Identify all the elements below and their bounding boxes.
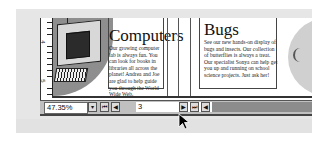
ruler-tick <box>47 88 52 89</box>
previous-page-button[interactable]: ◀ <box>111 102 120 112</box>
zoom-level-field[interactable]: 47.35% <box>44 102 88 114</box>
column-guide <box>167 18 168 96</box>
first-page-icon: ⏮ <box>102 103 107 110</box>
previous-page-icon: ◀ <box>113 103 118 110</box>
keyboard-icon <box>54 68 88 82</box>
ruler-tick <box>47 76 52 77</box>
status-bar: 47.35% ▾ ⏮ ◀ 3 ▶ ⏭ ◀ <box>40 100 312 116</box>
ruler-tick <box>47 64 52 65</box>
bugs-title: Bugs <box>204 21 239 38</box>
ruler-tick <box>47 52 52 53</box>
document-page[interactable]: Computers Our growing computer lab is al… <box>53 18 312 96</box>
monitor-screen <box>66 31 90 60</box>
ruler-tick <box>47 46 52 47</box>
frame-bottom-band <box>16 119 312 133</box>
mouse-pointer-icon <box>178 113 194 131</box>
computers-body: Our growing computer lab is always fun. … <box>109 45 161 96</box>
vertical-ruler[interactable]: 4 5 <box>41 18 53 96</box>
ruler-tick <box>47 28 52 29</box>
last-page-icon: ⏭ <box>192 103 197 110</box>
ruler-label: 4 <box>40 40 46 43</box>
ruler-tick <box>47 58 52 59</box>
computer-monitor-icon <box>57 20 101 67</box>
ruler-tick <box>47 70 52 71</box>
bugs-body: See our new hands-on display of bugs and… <box>204 39 278 79</box>
next-page-button[interactable]: ▶ <box>179 102 188 112</box>
zoom-dropdown-button[interactable]: ▾ <box>88 102 97 112</box>
scroll-left-icon: ◀ <box>203 103 208 110</box>
column-guide <box>190 18 191 96</box>
ruler-tick <box>47 22 52 23</box>
next-page-icon: ▶ <box>181 103 186 110</box>
ruler-tick <box>47 34 52 35</box>
computers-title: Computers <box>109 27 184 44</box>
ruler-tick <box>47 94 52 95</box>
chevron-down-icon: ▾ <box>91 103 94 110</box>
bug-wing-icon <box>293 48 301 62</box>
horizontal-scrollbar[interactable] <box>212 102 312 112</box>
page-bottom-edge <box>52 96 312 98</box>
ruler-label: 5 <box>40 79 46 82</box>
last-page-button[interactable]: ⏭ <box>190 102 199 112</box>
column-guide <box>178 18 179 96</box>
scroll-left-button[interactable]: ◀ <box>201 102 210 112</box>
first-page-button[interactable]: ⏮ <box>100 102 109 112</box>
